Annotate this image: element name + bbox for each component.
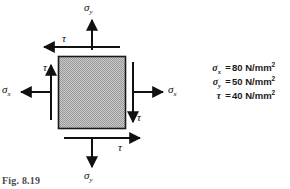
sigma-x-left-label: σx xyxy=(2,84,11,98)
legend-value: 40 N/mm2 xyxy=(232,89,275,101)
sigma-x-right-label: σx xyxy=(168,84,177,98)
legend-row: τ = 40 N/mm2 xyxy=(205,89,290,103)
tau-left-label: τ xyxy=(43,62,47,73)
tau-right-label: τ xyxy=(137,112,141,123)
sigma-y-top-label: σy xyxy=(84,2,93,16)
figure-caption: Fig. 8.19 xyxy=(2,175,40,186)
legend-row: σy = 50 N/mm2 xyxy=(205,75,290,89)
legend-equals: = xyxy=(224,90,232,101)
tau-bottom-label: τ xyxy=(118,142,122,153)
legend-value: 80 N/mm2 xyxy=(232,61,275,73)
legend-equals: = xyxy=(224,76,232,87)
legend-value: 50 N/mm2 xyxy=(232,75,275,87)
tau-top-label: τ xyxy=(62,33,66,44)
sigma-y-bottom-label: σy xyxy=(84,170,93,184)
legend-symbol: σx xyxy=(205,62,224,75)
legend-row: σx = 80 N/mm2 xyxy=(205,61,290,75)
legend-symbol: σy xyxy=(205,76,224,89)
legend-equals: = xyxy=(224,62,232,73)
stress-element-square xyxy=(59,57,126,129)
stress-values-legend: σx = 80 N/mm2 σy = 50 N/mm2 τ = 40 N/mm2 xyxy=(205,61,290,103)
legend-symbol: τ xyxy=(205,90,224,103)
